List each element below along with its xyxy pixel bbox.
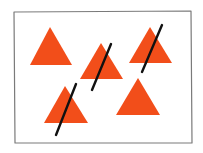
- triangles-illustration: [0, 0, 203, 153]
